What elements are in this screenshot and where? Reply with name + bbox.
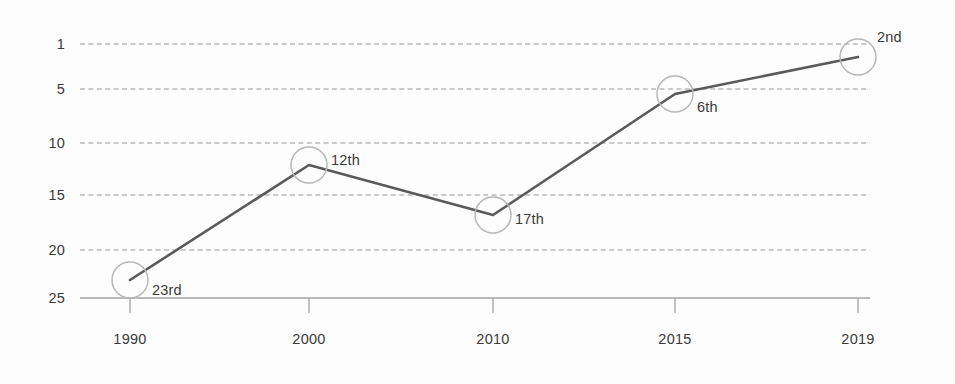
x-axis-ticks <box>130 298 858 313</box>
x-tick-label-2019: 2019 <box>798 332 918 347</box>
y-tick-label-10: 10 <box>20 136 65 151</box>
rank-trend-line-chart: 1 5 10 15 20 25 1990 2000 2010 2015 2019… <box>0 0 955 384</box>
data-point-label-2019: 2nd <box>877 30 902 45</box>
data-line-rank <box>130 57 858 280</box>
data-point-label-1990: 23rd <box>152 283 182 298</box>
x-tick-label-1990: 1990 <box>70 332 190 347</box>
x-tick-label-2010: 2010 <box>433 332 553 347</box>
y-tick-label-5: 5 <box>20 82 65 97</box>
y-tick-label-15: 15 <box>20 188 65 203</box>
y-tick-label-25: 25 <box>20 291 65 306</box>
data-point-label-2000: 12th <box>331 153 360 168</box>
data-point-label-2015: 6th <box>697 100 718 115</box>
y-tick-label-20: 20 <box>20 243 65 258</box>
data-point-label-2010: 17th <box>515 212 544 227</box>
chart-plot-area <box>0 0 955 384</box>
y-tick-label-1: 1 <box>20 37 65 52</box>
x-tick-label-2000: 2000 <box>249 332 369 347</box>
x-tick-label-2015: 2015 <box>615 332 735 347</box>
